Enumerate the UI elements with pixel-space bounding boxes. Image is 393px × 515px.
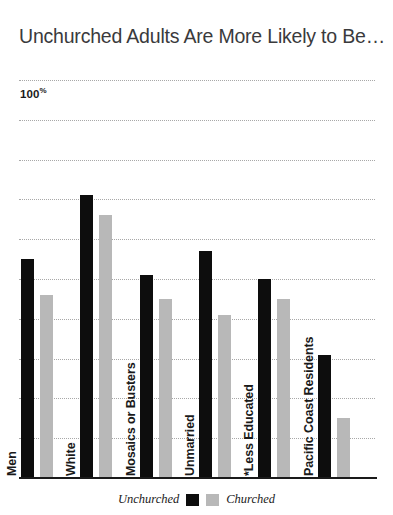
- bar-churched: [40, 295, 53, 478]
- bar-churched: [99, 215, 112, 478]
- bar-unchurched: [258, 279, 271, 478]
- x-axis-baseline: [19, 477, 377, 479]
- page-title: Unchurched Adults Are More Likely to Be…: [19, 25, 385, 48]
- bar-group: Unmarried: [197, 80, 256, 478]
- bar-churched: [159, 299, 172, 478]
- bar-churched: [218, 315, 231, 478]
- chart-bars-container: MenWhiteMosaics or BustersUnmarried*Less…: [19, 80, 375, 478]
- bar-unchurched: [140, 275, 153, 478]
- bar-group: Men: [19, 80, 78, 478]
- legend-swatch-churched: [206, 494, 219, 506]
- bar-unchurched: [80, 195, 93, 478]
- category-label: Men: [5, 451, 19, 476]
- legend-label-unchurched: Unchurched: [118, 492, 179, 507]
- chart-legend: Unchurched Churched: [0, 492, 393, 507]
- bar-unchurched: [199, 251, 212, 478]
- bar-group: *Less Educated: [256, 80, 315, 478]
- legend-swatch-unchurched: [186, 494, 199, 506]
- bar-churched: [337, 418, 350, 478]
- bar-unchurched: [318, 355, 331, 478]
- chart-plot-area: MenWhiteMosaics or BustersUnmarried*Less…: [19, 80, 375, 478]
- bar-group: Pacific Coast Residents: [316, 80, 375, 478]
- bar-group: Mosaics or Busters: [138, 80, 197, 478]
- legend-label-churched: Churched: [226, 492, 275, 507]
- bar-churched: [277, 299, 290, 478]
- bar-group: White: [78, 80, 137, 478]
- y-axis-max-value: 100: [20, 88, 40, 100]
- y-axis-max-label: 100%: [20, 86, 47, 100]
- y-axis-percent-symbol: %: [40, 86, 47, 95]
- bar-unchurched: [21, 259, 34, 478]
